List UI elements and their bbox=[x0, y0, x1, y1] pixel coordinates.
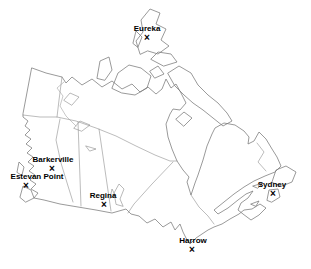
station-marker-icon: × bbox=[144, 33, 150, 43]
station-marker-icon: × bbox=[270, 189, 276, 199]
station-label: Estevan Point bbox=[11, 173, 64, 181]
station-marker-icon: × bbox=[23, 181, 29, 191]
stations-layer: Eureka×Barkerville×Estevan Point×Regina×… bbox=[0, 0, 311, 269]
station-marker-icon: × bbox=[189, 245, 195, 255]
station-marker-icon: × bbox=[101, 200, 107, 210]
canada-station-map: Eureka×Barkerville×Estevan Point×Regina×… bbox=[0, 0, 311, 269]
